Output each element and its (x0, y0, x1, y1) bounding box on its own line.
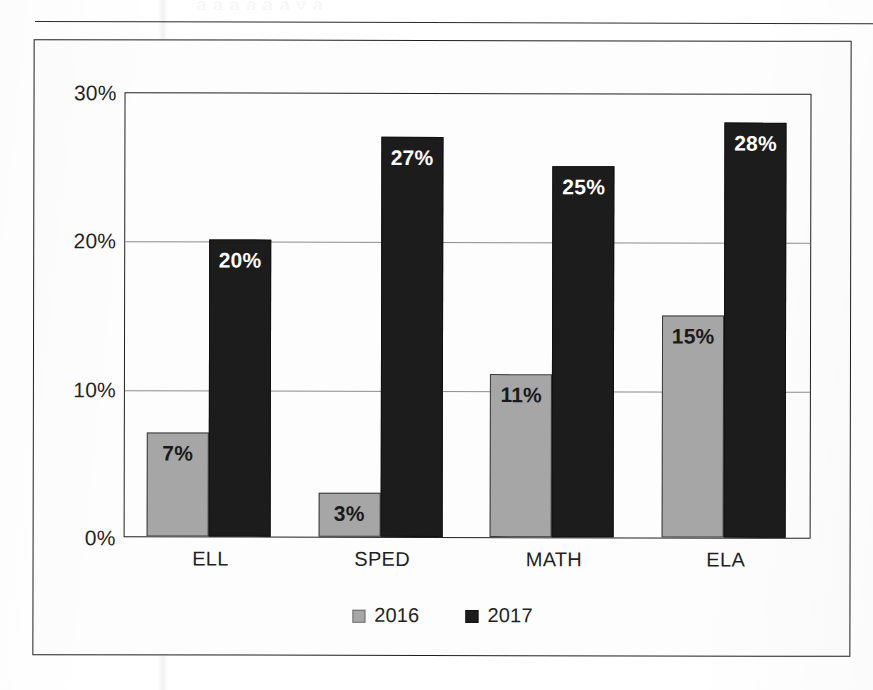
bar-value-label: 28% (726, 132, 786, 153)
legend-swatch-icon-2017 (465, 610, 478, 623)
bar-value-label: 7% (148, 443, 208, 464)
y-axis-tick-label: 0% (85, 526, 116, 550)
legend-item-2017[interactable]: 2017 (465, 604, 532, 627)
bar-value-label: 25% (554, 176, 614, 197)
bar-value-label: 20% (210, 250, 270, 271)
bar-ell-2016: 7% (146, 433, 208, 537)
bar-value-label: 15% (663, 325, 723, 346)
bar-ela-2016: 15% (662, 315, 724, 538)
legend-label: 2016 (374, 604, 419, 627)
legend-label: 2017 (487, 604, 532, 627)
x-axis-tick-label-sped: SPED (354, 548, 410, 571)
y-axis-tick-label: 30% (74, 81, 117, 105)
horizontal-rule (35, 21, 873, 24)
page-ghost-text: a a a a a a y a (196, 0, 666, 10)
bar-sped-2017: 27% (380, 136, 443, 537)
legend-swatch-icon-2016 (352, 610, 365, 623)
bar-value-label: 3% (319, 502, 379, 523)
bar-math-2017: 25% (552, 166, 615, 537)
plot-area: 0%10%20%30%7%20%ELL3%27%SPED11%25%MATH15… (124, 92, 812, 538)
bar-math-2016: 11% (490, 374, 552, 537)
y-axis-tick-label: 20% (74, 230, 117, 254)
legend-item-2016[interactable]: 2016 (352, 604, 419, 627)
x-axis-tick-label-ela: ELA (706, 549, 745, 572)
bar-sped-2016: 3% (318, 492, 380, 537)
x-axis-tick-label-ell: ELL (192, 547, 229, 570)
bar-value-label: 27% (382, 146, 442, 167)
chart-figure-frame: 0%10%20%30%7%20%ELL3%27%SPED11%25%MATH15… (32, 39, 851, 657)
bar-ell-2017: 20% (208, 240, 271, 537)
bar-value-label: 11% (491, 384, 551, 405)
y-axis-tick-label: 10% (73, 378, 116, 402)
bar-ela-2017: 28% (724, 122, 787, 537)
chart-legend: 20162017 (33, 603, 851, 628)
x-axis-tick-label-math: MATH (526, 548, 582, 571)
